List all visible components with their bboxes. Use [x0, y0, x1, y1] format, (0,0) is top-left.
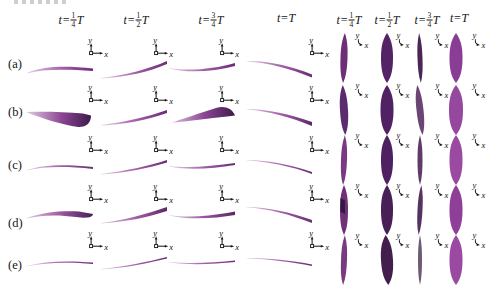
plate-frontal-shape: [450, 135, 463, 185]
plate-front-view: [379, 32, 395, 84]
plate-side-view: [27, 202, 95, 230]
plate-side-view: [246, 202, 314, 230]
axis-origin-box: [221, 52, 224, 55]
plate-profile-shape: [101, 257, 167, 270]
x-axis-arrowhead: [476, 43, 480, 46]
plate-frontal-shape: [381, 85, 394, 135]
plate-profile-shape: [169, 63, 235, 71]
plate-frontal-shape: [340, 235, 348, 285]
x-axis-label: x: [324, 242, 329, 252]
fraction-denominator: 4: [212, 20, 216, 28]
x-axis-label: x: [324, 195, 329, 205]
fraction-denominator: 4: [350, 20, 354, 28]
plate-front-view: [336, 184, 352, 236]
plate-profile-shape: [247, 207, 312, 223]
x-axis-arrowhead: [439, 93, 443, 96]
plate-front-view: [379, 184, 395, 236]
x-axis-arrowhead: [165, 245, 168, 248]
axis-xy-perspective-icon: yx: [352, 131, 372, 149]
x-axis-arrowhead: [439, 43, 443, 46]
y-axis-label: y: [87, 132, 92, 142]
axis-origin-box: [311, 99, 314, 102]
plate-front-view: [378, 234, 397, 286]
x-axis-arrowhead: [321, 198, 324, 201]
time-header-rhs: T: [217, 14, 224, 26]
plate-profile-shape: [101, 110, 167, 126]
plate-front-view: [411, 32, 429, 84]
plate-front-view: [448, 84, 464, 136]
y-axis-label: y: [87, 35, 92, 45]
x-axis-arrowhead: [476, 193, 480, 196]
y-axis-label: y: [471, 230, 476, 240]
y-axis-label: y: [471, 130, 476, 140]
axis-xy-perspective-icon: yx: [352, 31, 372, 49]
y-axis-label: y: [434, 130, 439, 140]
time-header-rhs: T: [142, 14, 149, 26]
plate-front-view: [335, 84, 354, 136]
x-axis-arrowhead: [321, 52, 324, 55]
axis-origin-box: [311, 198, 314, 201]
axis-origin-box: [155, 245, 158, 248]
fraction-denominator: 2: [137, 20, 141, 28]
plate-side-view: [101, 56, 169, 84]
time-header: t=34T: [199, 12, 224, 29]
plate-frontal-shape: [450, 33, 463, 83]
plate-profile-shape: [101, 160, 167, 175]
axis-xy-perspective-icon: yx: [469, 131, 489, 149]
x-axis-arrowhead: [100, 198, 103, 201]
plate-front-view: [335, 234, 353, 286]
x-axis-arrowhead: [400, 43, 404, 46]
axis-origin-box: [221, 198, 224, 201]
y-axis-label: y: [218, 181, 223, 191]
axis-xy-perspective-icon: yx: [352, 181, 372, 199]
time-fraction: 14: [71, 12, 77, 29]
plate-side-view: [246, 104, 314, 132]
plate-profile-shape: [169, 163, 235, 169]
plate-side-view: [27, 250, 95, 278]
axis-xy-perspective-icon: yx: [393, 31, 413, 49]
x-axis-arrowhead: [165, 149, 168, 152]
x-axis-label: x: [404, 190, 409, 200]
time-header-rhs: T: [433, 14, 440, 26]
axis-origin-box: [221, 245, 224, 248]
axis-origin-box: [90, 99, 93, 102]
plate-side-view: [246, 250, 314, 278]
x-axis-arrowhead: [476, 243, 480, 246]
plate-profile-shape: [27, 112, 91, 127]
plate-side-view: [169, 154, 237, 182]
x-axis-arrowhead: [231, 245, 234, 248]
y-axis-label: y: [354, 80, 359, 90]
plate-front-view: [335, 134, 353, 186]
time-header-rhs: T: [355, 14, 362, 26]
x-axis-arrowhead: [100, 52, 103, 55]
plate-frontal-shape: [414, 85, 426, 135]
cut-off-text-fragment: [14, 0, 68, 4]
y-axis-label: y: [354, 30, 359, 40]
plate-thick-core-shape: [341, 198, 346, 214]
time-fraction: 14: [349, 12, 355, 29]
x-axis-arrowhead: [439, 243, 443, 246]
y-axis-label: y: [434, 80, 439, 90]
plate-profile-shape: [169, 212, 235, 219]
plate-side-view: [246, 56, 314, 84]
plate-frontal-shape: [339, 85, 350, 135]
axis-xy-perspective-icon: yx: [352, 231, 372, 249]
x-axis-label: x: [404, 140, 409, 150]
x-axis-arrowhead: [321, 99, 324, 102]
y-axis-label: y: [395, 30, 400, 40]
axis-xy-perspective-icon: yx: [469, 231, 489, 249]
plate-frontal-shape: [418, 135, 423, 185]
axis-origin-box: [311, 149, 314, 152]
x-axis-arrowhead: [400, 143, 404, 146]
y-axis-label: y: [395, 180, 400, 190]
plate-front-view: [379, 84, 395, 136]
x-axis-label: x: [363, 140, 368, 150]
axis-origin-box: [155, 52, 158, 55]
plate-front-view: [335, 32, 353, 84]
x-axis-arrowhead: [400, 93, 404, 96]
axis-xy-perspective-icon: yx: [393, 181, 413, 199]
plate-front-view: [448, 134, 464, 186]
plate-side-view: [101, 202, 169, 230]
plate-profile-shape: [27, 261, 93, 266]
x-axis-label: x: [324, 49, 329, 59]
